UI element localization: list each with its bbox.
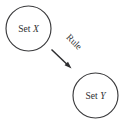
set-y-label-variable: Y	[100, 90, 107, 101]
set-y-label: Set Y	[85, 90, 107, 101]
set-relation-diagram: Set X Rule Set Y	[0, 0, 123, 123]
rule-arrow-line	[52, 50, 68, 65]
set-x-label: Set X	[18, 23, 40, 34]
diagram-canvas: Set X Rule Set Y	[0, 0, 123, 123]
node-set-x[interactable]: Set X	[6, 6, 51, 51]
rule-edge-label: Rule	[64, 32, 84, 52]
edge-rule[interactable]: Rule	[52, 32, 84, 68]
set-y-label-prefix: Set	[85, 90, 100, 101]
set-x-label-prefix: Set	[18, 23, 33, 34]
node-set-y[interactable]: Set Y	[73, 73, 118, 118]
set-x-label-variable: X	[32, 23, 40, 34]
